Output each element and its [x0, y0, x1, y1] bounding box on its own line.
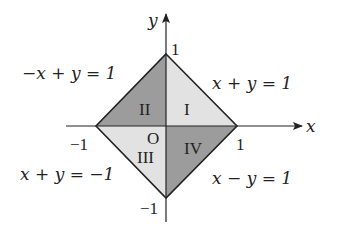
- region-label-III: III: [137, 148, 154, 167]
- tick-x-pos: 1: [236, 135, 245, 154]
- equation-top-right: x + y = 1: [212, 73, 292, 93]
- equation-bottom-right: x − y = 1: [212, 168, 292, 188]
- region-label-I: I: [184, 100, 190, 119]
- tick-x-neg: −1: [70, 135, 88, 154]
- region-label-II: II: [139, 100, 151, 119]
- equation-bottom-left: x + y = −1: [20, 164, 114, 184]
- equation-top-left: −x + y = 1: [22, 63, 116, 83]
- tick-y-pos: 1: [171, 40, 180, 59]
- tick-y-neg: −1: [140, 199, 158, 218]
- diamond-diagram: x y 1 −1 1 −1 O I II III IV −x + y = 1 x…: [0, 0, 338, 233]
- origin-label: O: [147, 129, 159, 148]
- region-label-IV: IV: [184, 139, 203, 158]
- y-axis-label: y: [147, 10, 158, 30]
- x-axis-label: x: [306, 116, 316, 136]
